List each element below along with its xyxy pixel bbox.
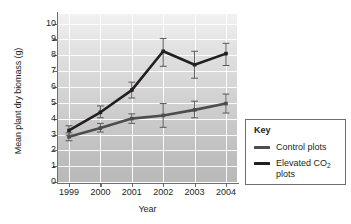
series-elevated-co2-plots	[66, 39, 230, 136]
legend-color-swatch	[254, 162, 270, 165]
data-point-marker	[193, 108, 197, 112]
y-tick-label: 4	[36, 113, 56, 123]
x-tick-label: 2004	[209, 187, 243, 197]
series-line	[69, 104, 226, 137]
y-tick-label: 9	[36, 33, 56, 43]
y-tick-label: 10	[36, 18, 56, 28]
x-axis-line	[57, 183, 239, 184]
data-series-layer	[58, 14, 237, 182]
y-tick-label: 0	[36, 176, 56, 186]
data-point-marker	[99, 110, 103, 114]
y-tick-label: 8	[36, 49, 56, 59]
legend-box: Key Control plotsElevated CO2 plots	[245, 119, 346, 185]
legend-item-label: Control plots	[276, 142, 327, 152]
series-line	[69, 51, 226, 130]
data-point-marker	[99, 126, 103, 130]
x-tick-label: 2003	[178, 187, 212, 197]
x-axis-title: Year	[58, 204, 237, 214]
data-point-marker	[224, 102, 228, 106]
data-point-marker	[161, 114, 165, 118]
data-point-marker	[193, 63, 197, 67]
x-tick-label: 2002	[146, 187, 180, 197]
y-tick-label: 3	[36, 129, 56, 139]
data-point-marker	[161, 49, 165, 53]
data-point-marker	[130, 88, 134, 92]
data-point-marker	[224, 52, 228, 56]
chart-figure: Mean plant dry biomass (g) 012345678910 …	[0, 0, 351, 224]
y-tick-label: 7	[36, 65, 56, 75]
x-tick-label: 2000	[83, 187, 117, 197]
data-point-marker	[67, 129, 71, 133]
y-tick-label: 6	[36, 81, 56, 91]
y-tick-label: 2	[36, 144, 56, 154]
data-point-marker	[130, 117, 134, 121]
y-axis-title: Mean plant dry biomass (g)	[13, 21, 23, 181]
legend-item[interactable]: Control plots	[254, 142, 327, 152]
legend-title: Key	[254, 125, 271, 135]
y-tick-label: 1	[36, 160, 56, 170]
legend-item-label: Elevated CO2 plots	[276, 158, 345, 179]
x-tick-label: 2001	[115, 187, 149, 197]
y-tick-label: 5	[36, 97, 56, 107]
legend-item[interactable]: Elevated CO2 plots	[254, 158, 345, 179]
x-tick-label: 1999	[52, 187, 86, 197]
legend-color-swatch	[254, 146, 270, 149]
legend-label-subscript: 2	[327, 162, 331, 169]
